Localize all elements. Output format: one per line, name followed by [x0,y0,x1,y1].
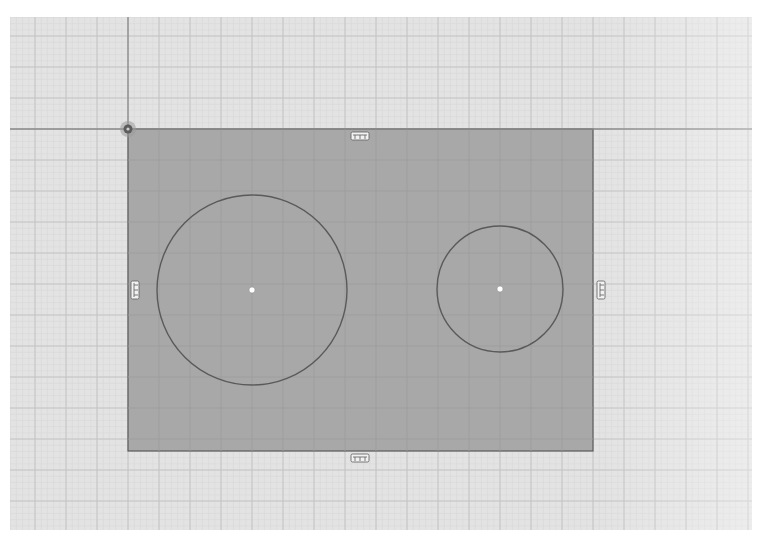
sketch-rectangle-profile[interactable] [128,129,593,451]
large-circle-center-point[interactable] [249,287,255,293]
origin-point-icon[interactable] [120,121,136,137]
sketch-canvas[interactable] [10,17,752,530]
sketch-scene[interactable] [10,17,752,530]
vertical-constraint-icon[interactable] [131,281,139,299]
small-circle-center-point[interactable] [497,286,503,292]
horizontal-constraint-icon[interactable] [351,454,369,462]
vertical-constraint-icon[interactable] [597,281,605,299]
horizontal-constraint-icon[interactable] [351,132,369,140]
